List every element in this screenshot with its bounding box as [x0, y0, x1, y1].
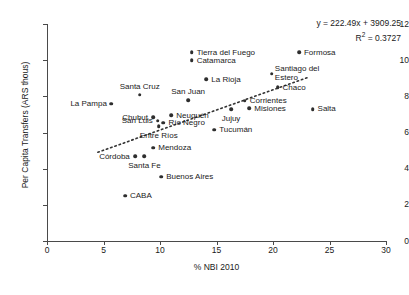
y-axis-title: Per Capita Transfers (ARS thous): [20, 40, 30, 210]
y-tick-label: 4: [371, 164, 409, 173]
x-axis-title: % NBI 2010: [47, 262, 386, 272]
x-tick-label: 25: [315, 246, 345, 255]
data-point[interactable]: [151, 146, 155, 150]
data-point[interactable]: [186, 98, 190, 102]
y-axis-line: [47, 24, 48, 242]
data-point[interactable]: [170, 114, 174, 118]
data-point[interactable]: [190, 58, 194, 62]
data-point[interactable]: [162, 121, 166, 125]
data-point-label: CABA: [130, 191, 152, 200]
regression-annotation: y = 222.49x + 3909.25 R2 = 0.3727: [316, 18, 401, 44]
data-point[interactable]: [297, 50, 301, 54]
data-point[interactable]: [229, 107, 233, 111]
x-tick-label: 0: [32, 246, 62, 255]
y-tick-mark: [43, 205, 47, 206]
data-point-label: San Luis: [122, 116, 153, 125]
data-point-label: Formosa: [304, 48, 336, 57]
data-point[interactable]: [311, 107, 315, 111]
y-tick-mark: [43, 169, 47, 170]
data-point-label: Santiago del Estero: [275, 64, 327, 83]
data-point[interactable]: [205, 77, 209, 81]
data-point[interactable]: [157, 124, 161, 128]
data-point-label: Misiones: [254, 104, 286, 113]
y-tick-mark: [43, 133, 47, 134]
data-point-label: Mendoza: [158, 143, 191, 152]
x-tick-label: 5: [89, 246, 119, 255]
data-point-label: Salta: [318, 104, 336, 113]
data-point-label: Río Negro: [168, 118, 204, 127]
y-tick-label: 8: [371, 92, 409, 101]
data-point-label: Entre Ríos: [140, 131, 178, 140]
data-point[interactable]: [190, 50, 194, 54]
r-squared-value: R2 = 0.3727: [316, 29, 401, 44]
y-tick-mark: [43, 96, 47, 97]
data-point-label: Buenos Aires: [166, 172, 213, 181]
y-tick-label: 6: [371, 128, 409, 137]
data-point-label: Jujuy: [222, 114, 241, 123]
y-tick-mark: [43, 60, 47, 61]
r-squared-number: = 0.3727: [365, 33, 401, 43]
x-tick-label: 15: [202, 246, 232, 255]
data-point-label: Tucumán: [219, 125, 252, 134]
data-point-label: La Rioja: [211, 75, 240, 84]
y-tick-label: 10: [371, 56, 409, 65]
data-point-label: San Juan: [171, 87, 205, 96]
data-point[interactable]: [110, 102, 114, 106]
data-point[interactable]: [123, 194, 127, 198]
data-point[interactable]: [212, 128, 216, 132]
y-tick-label: 2: [371, 200, 409, 209]
data-point[interactable]: [133, 154, 137, 158]
y-tick-mark: [43, 24, 47, 25]
data-point[interactable]: [142, 154, 146, 158]
data-point-label: La Pampa: [70, 99, 106, 108]
data-point-label: Catamarca: [197, 56, 236, 65]
data-point[interactable]: [156, 119, 160, 123]
data-point[interactable]: [159, 175, 163, 179]
data-point-label: Chaco: [283, 83, 306, 92]
x-tick-label: 30: [371, 246, 401, 255]
x-tick-label: 20: [258, 246, 288, 255]
data-point[interactable]: [243, 99, 247, 103]
scatter-chart: 024681012 051015202530 Per Capita Transf…: [0, 0, 409, 295]
data-point-label: Córdoba: [99, 152, 130, 161]
regression-equation: y = 222.49x + 3909.25: [316, 18, 401, 29]
data-point[interactable]: [138, 93, 142, 97]
data-point[interactable]: [247, 106, 251, 110]
x-tick-label: 10: [145, 246, 175, 255]
data-point-label: Santa Cruz: [120, 82, 160, 91]
y-tick-label: 0: [371, 237, 409, 246]
data-point[interactable]: [270, 72, 274, 76]
data-point[interactable]: [276, 85, 280, 89]
data-point-label: Santa Fe: [128, 161, 160, 170]
